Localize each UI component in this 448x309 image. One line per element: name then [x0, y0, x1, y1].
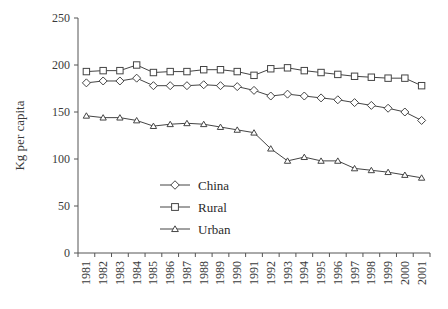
data-point-rural	[117, 67, 123, 73]
data-point-rural	[83, 68, 89, 74]
x-axis-tick-label: 1990	[230, 261, 244, 285]
data-point-china	[149, 82, 157, 90]
x-axis-tick-label: 1991	[247, 261, 261, 285]
legend-item-urban[interactable]: Urban	[160, 222, 231, 237]
x-axis-tick-label: 1987	[180, 261, 194, 285]
x-axis-tick-label: 1982	[96, 261, 110, 285]
y-axis-tick-label: 50	[58, 199, 70, 213]
chart-container: 0501001502002501981198219831984198519861…	[0, 0, 448, 309]
x-axis-tick-label: 1981	[79, 261, 93, 285]
x-axis-tick-label: 2001	[415, 261, 429, 285]
data-point-china	[418, 116, 426, 124]
data-point-rural	[133, 62, 139, 68]
y-axis-tick-label: 0	[64, 246, 70, 260]
x-axis-tick-label: 1996	[331, 261, 345, 285]
y-axis-tick-label: 100	[52, 152, 70, 166]
data-point-china	[200, 81, 208, 89]
data-point-rural	[385, 75, 391, 81]
x-axis-tick-label: 1993	[281, 261, 295, 285]
x-axis-tick-label: 1995	[314, 261, 328, 285]
data-point-rural	[201, 67, 207, 73]
data-point-china	[216, 82, 224, 90]
data-point-rural	[301, 67, 307, 73]
data-point-rural	[217, 67, 223, 73]
data-point-china	[183, 82, 191, 90]
data-point-china	[334, 96, 342, 104]
legend-label-china: China	[198, 178, 229, 193]
y-axis-tick-label: 250	[52, 11, 70, 25]
data-point-urban	[351, 165, 357, 170]
x-axis-tick-label: 1988	[197, 261, 211, 285]
y-axis-tick-label: 150	[52, 105, 70, 119]
data-point-china	[233, 83, 241, 91]
series-urban	[83, 113, 425, 180]
data-point-rural	[402, 75, 408, 81]
legend-label-rural: Rural	[198, 200, 227, 215]
data-point-rural	[100, 67, 106, 73]
data-point-rural	[167, 68, 173, 74]
data-point-china	[99, 77, 107, 85]
chart-legend: ChinaRuralUrban	[160, 178, 231, 237]
series-china	[82, 74, 425, 124]
x-axis-tick-label: 1989	[213, 261, 227, 285]
data-point-rural	[318, 69, 324, 75]
data-point-china	[166, 82, 174, 90]
data-point-china	[401, 108, 409, 116]
data-point-rural	[268, 66, 274, 72]
x-axis-tick-label: 1985	[146, 261, 160, 285]
data-point-china	[82, 79, 90, 87]
data-point-china	[250, 86, 258, 94]
series-rural	[83, 62, 425, 89]
legend-item-rural[interactable]: Rural	[160, 200, 227, 215]
data-point-china	[367, 101, 375, 109]
legend-marker-rural	[172, 204, 179, 211]
data-point-china	[133, 74, 141, 82]
legend-item-china[interactable]: China	[160, 178, 229, 193]
x-axis-tick-label: 1997	[348, 261, 362, 285]
legend-marker-china	[171, 181, 180, 190]
data-point-rural	[234, 68, 240, 74]
data-point-china	[317, 94, 325, 102]
line-chart-plot: 0501001502002501981198219831984198519861…	[0, 0, 448, 309]
legend-label-urban: Urban	[198, 222, 231, 237]
data-point-china	[116, 77, 124, 85]
x-axis-tick-label: 1983	[113, 261, 127, 285]
data-point-china	[384, 104, 392, 112]
data-point-rural	[351, 73, 357, 79]
y-axis-tick-label: 200	[52, 58, 70, 72]
x-axis-tick-label: 1998	[364, 261, 378, 285]
data-point-china	[284, 90, 292, 98]
x-axis-tick-label: 1999	[381, 261, 395, 285]
data-point-rural	[418, 82, 424, 88]
data-point-china	[267, 92, 275, 100]
data-point-rural	[284, 65, 290, 71]
data-point-rural	[251, 72, 257, 78]
data-point-rural	[184, 68, 190, 74]
x-axis-tick-label: 1994	[297, 261, 311, 285]
data-point-rural	[368, 74, 374, 80]
data-point-urban	[301, 154, 307, 159]
x-axis-tick-label: 2000	[398, 261, 412, 285]
x-axis-tick-label: 1986	[163, 261, 177, 285]
x-axis-tick-label: 1984	[130, 261, 144, 285]
data-point-urban	[83, 113, 89, 118]
data-point-china	[300, 92, 308, 100]
data-point-rural	[150, 69, 156, 75]
x-axis-tick-label: 1992	[264, 261, 278, 285]
y-axis-title: Kg per capita	[12, 100, 27, 170]
data-point-china	[351, 99, 359, 107]
data-point-rural	[335, 71, 341, 77]
series-line-china	[86, 78, 421, 120]
